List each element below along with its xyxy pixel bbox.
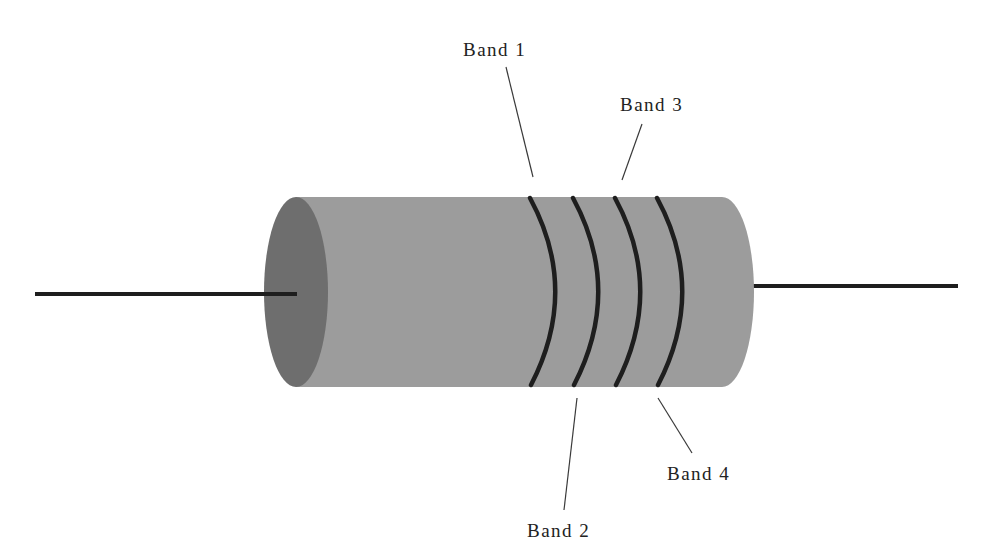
band-4-label: Band 4 [667, 463, 730, 484]
band-3-leader-line [622, 124, 642, 180]
resistor-body [296, 197, 754, 387]
resistor-diagram: Band 1 Band 3 Band 4 Band 2 [0, 0, 986, 560]
band-3-label: Band 3 [620, 94, 683, 115]
band-2-leader-line [564, 398, 577, 510]
band-2-label: Band 2 [527, 520, 590, 541]
band-1-leader-line [506, 67, 533, 177]
band-1-label: Band 1 [463, 39, 526, 60]
band-4-leader-line [658, 398, 692, 453]
